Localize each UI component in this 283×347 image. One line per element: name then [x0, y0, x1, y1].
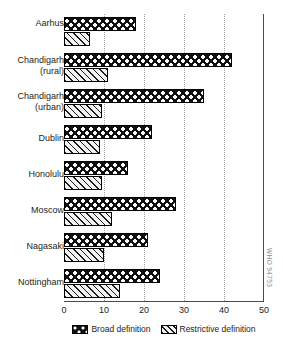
- category-label: Nagasaki: [0, 241, 64, 252]
- bar-restrictive: [64, 212, 112, 226]
- category-label-line1: Dublin: [38, 133, 64, 143]
- category-label-line2: (urban): [0, 102, 64, 113]
- bar-group: [64, 196, 263, 232]
- legend-label-broad: Broad definition: [91, 324, 150, 334]
- category-label: Nottingham: [0, 277, 64, 288]
- bar-restrictive: [64, 140, 100, 154]
- bar-group: [64, 124, 263, 160]
- bar-group: [64, 52, 263, 88]
- bar-broad: [64, 161, 128, 175]
- category-label: Aarhus: [0, 18, 64, 29]
- bar-restrictive: [64, 284, 120, 298]
- legend-item-restrictive: Restrictive definition: [161, 324, 256, 334]
- category-label-line1: Aarhus: [35, 18, 64, 28]
- legend-label-restrictive: Restrictive definition: [180, 324, 256, 334]
- bar-restrictive: [64, 32, 90, 46]
- bar-broad: [64, 197, 176, 211]
- bar-restrictive: [64, 248, 104, 262]
- category-label-line1: Moscow: [31, 205, 64, 215]
- category-label-line1: Chandigarh: [17, 55, 64, 65]
- watermark-text: WHO 94753: [266, 248, 273, 287]
- category-label: Dublin: [0, 133, 64, 144]
- xtick-label: 10: [99, 305, 109, 315]
- bar-restrictive: [64, 104, 102, 118]
- bar-group: [64, 160, 263, 196]
- xtick-label: 20: [139, 305, 149, 315]
- bar-broad: [64, 233, 148, 247]
- category-label-line1: Honolulu: [28, 169, 64, 179]
- chart-legend: Broad definition Restrictive definition: [64, 324, 264, 334]
- bar-broad: [64, 17, 136, 31]
- bar-chart: Aarhus Chandigarh (rural) Chandigarh (ur…: [0, 0, 283, 347]
- legend-swatch-broad-icon: [72, 325, 88, 334]
- category-label-line1: Nagasaki: [26, 241, 64, 251]
- bar-broad: [64, 53, 232, 67]
- xtick-label: 30: [179, 305, 189, 315]
- bar-restrictive: [64, 68, 108, 82]
- xtick-label: 40: [219, 305, 229, 315]
- legend-item-broad: Broad definition: [72, 324, 150, 334]
- bar-restrictive: [64, 176, 102, 190]
- category-label: Chandigarh (urban): [0, 91, 64, 112]
- category-label: Chandigarh (rural): [0, 55, 64, 76]
- bar-group: [64, 268, 263, 304]
- bar-broad: [64, 125, 152, 139]
- xtick-label: 50: [259, 305, 269, 315]
- bar-broad: [64, 269, 160, 283]
- bar-group: [64, 232, 263, 268]
- bar-broad: [64, 89, 204, 103]
- bar-group: [64, 16, 263, 52]
- category-label-line2: (rural): [0, 66, 64, 77]
- category-label: Honolulu: [0, 169, 64, 180]
- plot-area: [64, 14, 264, 302]
- category-label-line1: Nottingham: [18, 277, 64, 287]
- category-label-line1: Chandigarh: [17, 91, 64, 101]
- xtick-label: 0: [61, 305, 66, 315]
- bar-group: [64, 88, 263, 124]
- legend-swatch-restrictive-icon: [161, 325, 177, 334]
- category-label: Moscow: [0, 205, 64, 216]
